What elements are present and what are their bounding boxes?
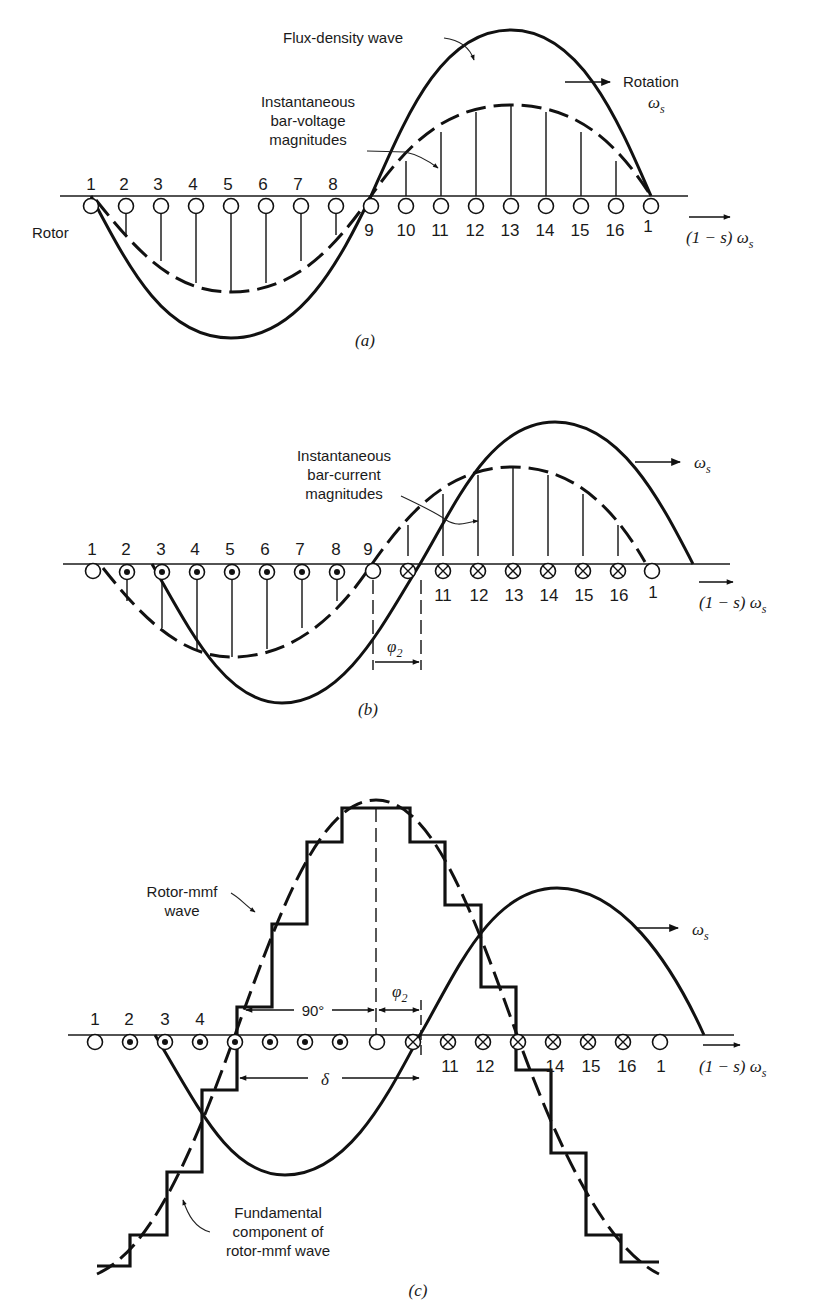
svg-text:4: 4 — [195, 1010, 204, 1029]
svg-text:11: 11 — [431, 221, 449, 240]
svg-text:bar-current: bar-current — [307, 466, 381, 483]
rotor-conductors-c — [88, 1035, 668, 1050]
bar-current-label: Instantaneous bar-current magnitudes — [297, 447, 391, 502]
svg-text:11: 11 — [434, 586, 452, 605]
svg-text:8: 8 — [331, 540, 340, 559]
bar-numbers-bottom-b: 11 12 13 14 15 16 1 — [434, 583, 658, 605]
svg-text:bar-voltage: bar-voltage — [270, 112, 345, 129]
svg-text:13: 13 — [505, 586, 524, 605]
rotor-label: Rotor — [32, 224, 69, 241]
rotor-speed-label-c: (1 − s) ωs — [699, 1057, 767, 1080]
bar-numbers-top-c: 1 2 3 4 — [90, 1010, 204, 1029]
svg-text:16: 16 — [606, 221, 625, 240]
bar-numbers-top-a: 1 2 3 4 5 6 7 8 — [86, 175, 337, 194]
svg-text:15: 15 — [575, 586, 594, 605]
svg-text:magnitudes: magnitudes — [305, 485, 383, 502]
svg-text:1: 1 — [86, 175, 95, 194]
rotation-label: Rotation — [623, 73, 679, 90]
svg-text:4: 4 — [188, 175, 197, 194]
svg-text:magnitudes: magnitudes — [269, 131, 347, 148]
svg-text:9: 9 — [363, 540, 372, 559]
svg-text:15: 15 — [571, 221, 590, 240]
panel-a: 1 2 3 4 5 6 7 8 9 10 11 12 13 14 15 16 1… — [32, 29, 754, 350]
caption-b: (b) — [358, 700, 378, 719]
svg-text:7: 7 — [293, 175, 302, 194]
angle-90-label: 90° — [302, 1002, 325, 1019]
svg-text:5: 5 — [223, 175, 232, 194]
bar-voltage-leader — [367, 151, 438, 168]
svg-text:16: 16 — [618, 1057, 637, 1076]
svg-text:3: 3 — [160, 1010, 169, 1029]
svg-text:3: 3 — [153, 175, 162, 194]
svg-text:2: 2 — [119, 175, 128, 194]
induction-motor-rotor-diagram: 1 2 3 4 5 6 7 8 9 10 11 12 13 14 15 16 1… — [0, 0, 820, 1307]
svg-text:12: 12 — [476, 1057, 495, 1076]
bar-current-leader — [401, 496, 478, 524]
svg-text:15: 15 — [582, 1057, 601, 1076]
rotor-mmf-leader — [231, 893, 255, 912]
svg-text:Instantaneous: Instantaneous — [261, 93, 355, 110]
rotor-mmf-label: Rotor-mmf wave — [147, 883, 219, 919]
svg-text:5: 5 — [225, 540, 234, 559]
flux-density-wave — [91, 30, 651, 338]
rotor-speed-label-b: (1 − s) ωs — [699, 593, 767, 616]
svg-text:14: 14 — [536, 221, 555, 240]
svg-text:1: 1 — [656, 1057, 665, 1076]
svg-text:6: 6 — [260, 540, 269, 559]
svg-text:9: 9 — [364, 221, 373, 240]
bar-numbers-bottom-c: 11 12 14 15 16 1 — [441, 1057, 666, 1076]
rotor-conductors-a — [84, 199, 659, 214]
omega-s-label-b: ωs — [694, 453, 711, 476]
phi2-label-c: φ2 — [392, 982, 407, 1005]
svg-text:1: 1 — [90, 1010, 99, 1029]
caption-a: (a) — [355, 331, 375, 350]
svg-text:8: 8 — [328, 175, 337, 194]
flux-wave-label: Flux-density wave — [283, 29, 403, 46]
svg-text:14: 14 — [546, 1057, 565, 1076]
fundamental-leader — [183, 1200, 210, 1232]
rotor-conductors-b — [86, 564, 660, 580]
omega-s-label-c: ωs — [692, 920, 709, 943]
svg-text:2: 2 — [121, 540, 130, 559]
svg-text:10: 10 — [397, 221, 416, 240]
svg-text:2: 2 — [124, 1010, 133, 1029]
delta-label: δ — [321, 1070, 330, 1089]
flux-density-wave-b — [152, 422, 693, 703]
bar-numbers-bottom-a: 9 10 11 12 13 14 15 16 1 — [364, 217, 652, 240]
svg-text:Rotor-mmf: Rotor-mmf — [147, 883, 219, 900]
phi2-label-b: φ2 — [387, 637, 402, 660]
svg-text:3: 3 — [156, 540, 165, 559]
bar-voltage-label: Instantaneous bar-voltage magnitudes — [261, 93, 355, 148]
svg-text:1: 1 — [87, 540, 96, 559]
svg-text:Fundamental: Fundamental — [234, 1204, 322, 1221]
fundamental-label: Fundamental component of rotor-mmf wave — [226, 1204, 330, 1259]
svg-text:12: 12 — [466, 221, 485, 240]
omega-s-label: ωs — [648, 93, 665, 116]
svg-text:wave: wave — [163, 902, 199, 919]
svg-text:Instantaneous: Instantaneous — [297, 447, 391, 464]
svg-text:rotor-mmf wave: rotor-mmf wave — [226, 1242, 330, 1259]
svg-text:1: 1 — [643, 217, 652, 236]
svg-text:7: 7 — [295, 540, 304, 559]
panel-c: 1 2 3 4 11 12 14 15 16 1 90° φ2 δ Rotor-… — [68, 800, 767, 1300]
panel-b: φ2 1 2 3 4 — [63, 422, 767, 719]
caption-c: (c) — [409, 1281, 428, 1300]
svg-text:11: 11 — [441, 1057, 459, 1076]
rotor-speed-label: (1 − s) ωs — [686, 228, 754, 251]
svg-text:14: 14 — [540, 586, 559, 605]
svg-text:13: 13 — [501, 221, 520, 240]
svg-text:1: 1 — [648, 583, 657, 602]
svg-text:component of: component of — [233, 1223, 325, 1240]
svg-text:6: 6 — [258, 175, 267, 194]
svg-text:16: 16 — [610, 586, 629, 605]
svg-text:12: 12 — [470, 586, 489, 605]
svg-text:4: 4 — [190, 540, 199, 559]
bar-numbers-top-b: 1 2 3 4 5 6 7 8 9 — [87, 540, 372, 559]
